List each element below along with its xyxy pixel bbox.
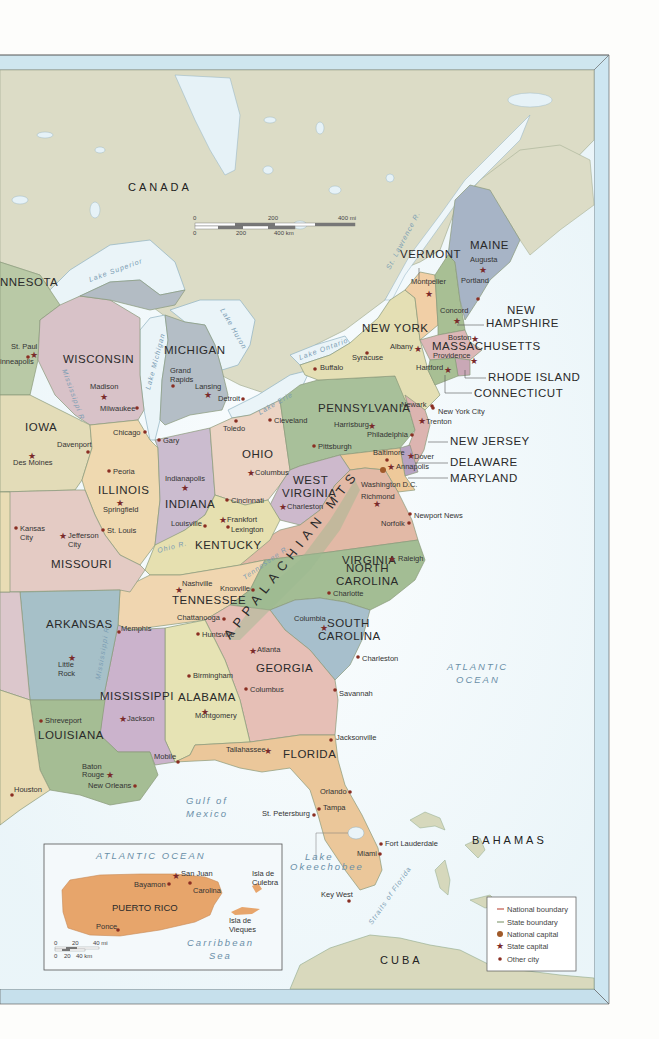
city-label-philadelphia: Philadelphia: [367, 430, 409, 439]
city-dot-icon: [407, 521, 411, 525]
city-label-lexington: Lexington: [231, 525, 264, 534]
state-capital-star-icon: ★: [414, 344, 422, 354]
state-capital-star-icon: ★: [387, 462, 395, 472]
city-dot-icon: [244, 687, 248, 691]
city-label-montgomery: Montgomery: [195, 711, 237, 720]
city-label-lansing: Lansing: [195, 382, 221, 391]
city-label-gary: Gary: [163, 436, 180, 445]
city-label-boston: Boston: [448, 333, 471, 342]
city-label-columbus: Columbus: [250, 685, 284, 694]
city-label-charlotte: Charlotte: [333, 589, 363, 598]
city-label-city: City: [68, 540, 81, 549]
city-label-washington-d-c: Washington D.C.: [361, 480, 417, 489]
city-dot-icon: [431, 406, 435, 410]
state-capital-star-icon: ★: [320, 623, 328, 633]
city-label-concord: Concord: [440, 306, 468, 315]
city-dot-icon: [176, 760, 180, 764]
legend-state-capital: State capital: [507, 942, 549, 951]
city-label-detroit: Detroit: [218, 394, 241, 403]
state-capital-star-icon: ★: [100, 392, 108, 402]
state-label-vermont: VERMONT: [400, 248, 461, 260]
state-label-new-jersey: NEW JERSEY: [450, 435, 530, 447]
city-label-miami: Miami: [357, 849, 377, 858]
state-label-kentucky: KENTUCKY: [195, 539, 262, 551]
state-label-maryland: MARYLAND: [450, 472, 518, 484]
city-label-charleston: Charleston: [362, 654, 398, 663]
city-label-annapolis: Annapolis: [396, 462, 429, 471]
state-label-wisconsin: WISCONSIN: [63, 353, 134, 365]
city-label-toledo: Toledo: [223, 424, 245, 433]
scale-label-mi-400: 400 mi: [338, 215, 356, 221]
scale-label-mi-200: 200: [268, 215, 279, 221]
state-label-ohio: OHIO: [242, 448, 273, 460]
lake-okeechobee: [348, 827, 364, 839]
city-dot-icon: [410, 433, 414, 437]
city-label-peoria: Peoria: [113, 467, 136, 476]
city-label-trenton: Trenton: [426, 417, 452, 426]
city-label-fort-lauderdale: Fort Lauderdale: [385, 839, 438, 848]
inset-ocean-label: ATLANTIC OCEAN: [95, 850, 206, 861]
legend-other-city: Other city: [507, 955, 539, 964]
city-label-carolina: Carolina: [193, 886, 222, 895]
country-label-canada: CANADA: [128, 181, 192, 193]
city-dot-icon: [107, 469, 111, 473]
city-label-atlanta: Atlanta: [257, 645, 281, 654]
city-label-city: City: [20, 533, 33, 542]
state-capital-star-icon: ★: [453, 316, 461, 326]
legend-state-boundary: State boundary: [507, 918, 558, 927]
city-dot-icon: [167, 882, 171, 886]
city-label-memphis: Memphis: [121, 624, 152, 633]
puerto-rico-inset: ATLANTIC OCEAN PUERTO RICO Carribbean Se…: [44, 844, 282, 970]
state-label-south: SOUTH: [327, 617, 370, 629]
city-label-norfolk: Norfolk: [381, 519, 405, 528]
scale-label-km-400: 400 km: [274, 230, 294, 236]
state-label-florida: FLORIDA: [283, 748, 336, 760]
city-dot-icon: [226, 525, 230, 529]
city-label-chicago: Chicago: [113, 428, 141, 437]
city-dot-icon: [225, 498, 229, 502]
state-label-georgia: GEORGIA: [256, 662, 313, 674]
city-dot-icon: [408, 512, 412, 516]
inset-scale-mi-20: 20: [72, 940, 79, 946]
city-label-buffalo: Buffalo: [320, 363, 343, 372]
city-label-baltimore: Baltimore: [373, 448, 405, 457]
city-label-new-orleans: New Orleans: [88, 781, 132, 790]
state-label-alabama: ALABAMA: [178, 691, 236, 703]
city-label-jefferson: Jefferson: [68, 531, 99, 540]
state-capital-star-icon: ★: [59, 531, 67, 541]
city-dot-icon: [312, 813, 316, 817]
state-label-west: WEST: [293, 474, 328, 486]
city-label-syracuse: Syracuse: [352, 353, 383, 362]
scale-label-km-200: 200: [236, 230, 247, 236]
city-label-madison: Madison: [90, 382, 118, 391]
city-label-key-west: Key West: [321, 890, 354, 899]
isla-culebra-label-line1: Isla de: [252, 869, 274, 878]
city-label-tallahassee: Tallahassee: [226, 745, 266, 754]
map-page: CANADABAHAMASCUBA ATLANTICOCEANGulf ofMe…: [0, 0, 659, 1039]
inset-scale-km-40: 40 km: [76, 953, 92, 959]
city-label-orlando: Orlando: [320, 787, 347, 796]
national-capital-icon: [380, 467, 386, 473]
inset-scale-mi-40: 40 mi: [93, 940, 108, 946]
city-dot-icon: [171, 384, 175, 388]
city-dot-icon: [39, 719, 43, 723]
city-label-mobile: Mobile: [154, 752, 176, 761]
state-label-indiana: INDIANA: [165, 498, 215, 510]
state-capital-star-icon: ★: [479, 265, 487, 275]
state-label-pennsylvania: PENNSYLVANIA: [318, 402, 411, 414]
city-label-chattanooga: Chattanooga: [177, 613, 221, 622]
city-dot-icon: [241, 397, 245, 401]
water-label-okeechobee: Okeechobee: [290, 861, 364, 872]
city-dot-icon: [143, 430, 147, 434]
state-label-illinois: ILLINOIS: [98, 484, 149, 496]
city-label-charleston: Charleston: [287, 502, 323, 511]
city-dot-icon: [86, 450, 90, 454]
state-label-carolina: CAROLINA: [336, 575, 399, 587]
city-label-bayamon: Bayamon: [134, 880, 166, 889]
city-dot-icon: [348, 790, 352, 794]
city-label-knoxville: Knoxville: [220, 584, 250, 593]
state-label-louisiana: LOUISIANA: [38, 729, 104, 741]
city-label-milwaukee: Milwaukee: [100, 404, 135, 413]
caribbean-sea-label-line1: Carribbean: [187, 937, 254, 948]
city-label-huntsville: Huntsville: [202, 630, 235, 639]
